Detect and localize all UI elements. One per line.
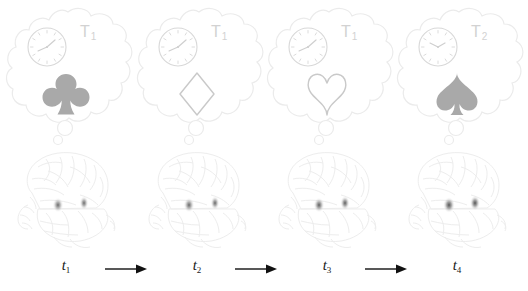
panel-2: T1 <box>131 0 263 291</box>
timeline-arrow-3-to-4 <box>363 261 409 277</box>
brain-illustration-3 <box>271 145 387 253</box>
timeline-arrow-2-to-3 <box>233 261 279 277</box>
context-label-letter: T <box>341 23 351 40</box>
suit-club-icon <box>41 70 91 118</box>
brain-illustration-2 <box>141 145 257 253</box>
suit-spade-icon <box>432 70 482 118</box>
panel-3: T1 <box>261 0 393 291</box>
context-label-letter: T <box>80 23 90 40</box>
context-label-subscript: 2 <box>482 31 488 42</box>
context-label-letter: T <box>471 23 481 40</box>
figure-canvas: T1 <box>0 0 528 291</box>
context-label-2: T1 <box>211 24 226 40</box>
clock-icon-4 <box>417 26 459 68</box>
context-label-subscript: 1 <box>222 31 228 42</box>
time-label-subscript: 2 <box>197 265 202 275</box>
time-label-subscript: 4 <box>457 265 462 275</box>
panel-1: T1 <box>0 0 132 291</box>
suit-diamond-icon <box>172 70 222 118</box>
brain-illustration-1 <box>10 145 126 253</box>
thought-bubble-3: T1 <box>269 6 389 141</box>
clock-icon-2 <box>157 26 199 68</box>
context-label-1: T1 <box>80 24 95 40</box>
clock-icon-1 <box>26 26 68 68</box>
thought-bubble-2: T1 <box>139 6 259 141</box>
timeline-arrow-1-to-2 <box>103 261 149 277</box>
brain-illustration-4 <box>401 145 517 253</box>
panel-4: T2 <box>391 0 523 291</box>
time-label-4: t4 <box>391 258 523 273</box>
thought-bubble-1: T1 <box>8 6 128 141</box>
context-label-subscript: 1 <box>91 31 97 42</box>
time-label-subscript: 3 <box>327 265 332 275</box>
time-label-subscript: 1 <box>66 265 71 275</box>
context-label-4: T2 <box>471 24 486 40</box>
context-label-letter: T <box>211 23 221 40</box>
context-label-subscript: 1 <box>352 31 358 42</box>
context-label-3: T1 <box>341 24 356 40</box>
suit-heart-icon <box>302 70 352 118</box>
thought-bubble-4: T2 <box>399 6 519 141</box>
clock-icon-3 <box>287 26 329 68</box>
